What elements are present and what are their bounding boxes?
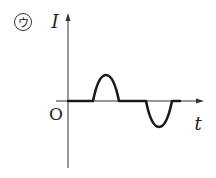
- graph-svg: ウ I t O: [0, 0, 216, 178]
- graph-figure: ウ I t O: [0, 0, 216, 178]
- x-axis-arrow-icon: [196, 99, 204, 104]
- circled-label-text: ウ: [18, 17, 29, 30]
- circled-label: ウ: [15, 14, 32, 31]
- origin-label: O: [49, 104, 63, 124]
- y-axis-arrow-icon: [66, 13, 71, 21]
- y-axis-label: I: [50, 11, 59, 32]
- x-axis-label: t: [194, 113, 202, 134]
